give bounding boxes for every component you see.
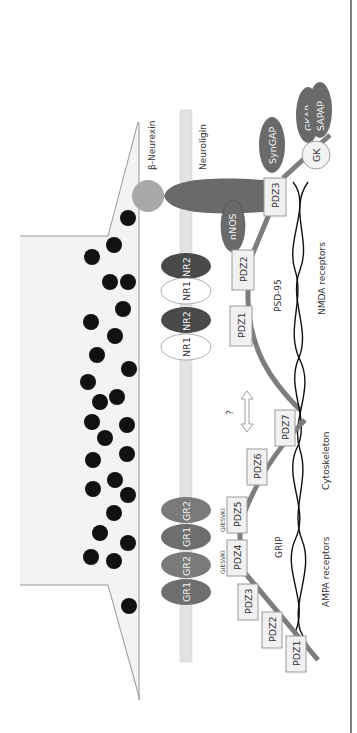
grip-pdz6: PDZ6	[247, 449, 267, 485]
grip-pdz1: PDZ1	[286, 636, 306, 672]
nnos-label: nNOS	[227, 213, 238, 240]
giesvki-label-pdz4: GIESVKI	[219, 550, 226, 574]
double-arrow-icon	[241, 391, 253, 432]
svg-text:GR2: GR2	[181, 556, 192, 576]
svg-text:GR1: GR1	[181, 582, 192, 602]
svg-text:PDZ7: PDZ7	[280, 414, 291, 440]
psd95-label: PSD-95	[273, 279, 283, 312]
synapse-diagram: β-Neurexin Neuroligin nNOS SynGAP GKAP S…	[0, 0, 357, 733]
beta-neurexin-protein	[132, 180, 164, 212]
grip-pdz7: PDZ7	[275, 410, 295, 446]
svg-text:NR2: NR2	[181, 311, 192, 331]
svg-text:PDZ2: PDZ2	[267, 616, 278, 642]
svg-text:PDZ6: PDZ6	[252, 453, 263, 479]
svg-text:PDZ1: PDZ1	[236, 312, 247, 338]
svg-text:NR1: NR1	[181, 281, 192, 301]
svg-text:GR1: GR1	[181, 527, 192, 547]
beta-neurexin-label: β-Neurexin	[147, 121, 157, 170]
neuroligin-label: Neuroligin	[198, 124, 208, 170]
giesvki-label-pdz5: GIESVKI	[219, 508, 226, 532]
grip-pdz3: PDZ3	[238, 584, 258, 620]
sapap-label: SAPAP	[315, 101, 326, 131]
svg-text:PDZ1: PDZ1	[291, 640, 302, 666]
presynaptic-terminal	[20, 122, 140, 700]
grip-pdz4: PDZ4	[227, 540, 247, 576]
svg-text:PDZ5: PDZ5	[232, 501, 243, 527]
nmda-receptors-label: NMDA receptors	[317, 242, 327, 315]
neuroligin-protein	[164, 179, 265, 214]
svg-text:PDZ3: PDZ3	[270, 182, 281, 208]
psd95-pdz3: PDZ3	[264, 178, 286, 216]
svg-text:PDZ2: PDZ2	[238, 256, 249, 282]
svg-text:NR1: NR1	[181, 337, 192, 357]
svg-text:NR2: NR2	[181, 257, 192, 277]
psd95-pdz2: PDZ2	[232, 250, 254, 290]
grip-pdz2: PDZ2	[262, 612, 282, 648]
svg-text:PDZ4: PDZ4	[232, 544, 243, 570]
syngap-label: SynGAP	[267, 126, 278, 164]
svg-text:PDZ3: PDZ3	[243, 588, 254, 614]
cytoskeleton-label: Cytoskeleton	[321, 431, 331, 490]
grip-label: GRIP	[274, 536, 284, 558]
gk-label: GK	[311, 148, 322, 162]
psd95-pdz1: PDZ1	[230, 306, 252, 346]
svg-text:GR2: GR2	[181, 501, 192, 521]
question-mark-label: ?	[225, 410, 235, 415]
ampa-receptors-label: AMPA receptors	[321, 536, 331, 607]
grip-pdz5: PDZ5	[227, 497, 247, 533]
